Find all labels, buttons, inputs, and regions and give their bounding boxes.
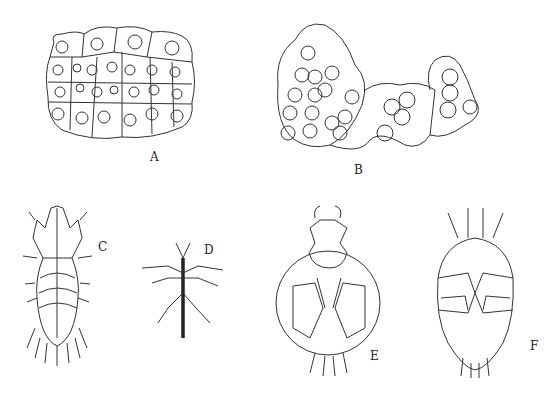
panel-label-b: B	[354, 164, 363, 176]
panel-label-a: A	[150, 151, 159, 163]
panel-label-f: F	[530, 340, 538, 352]
panel-label-e: E	[370, 350, 379, 362]
panel-label-c: C	[98, 241, 107, 253]
panel-label-d: D	[204, 244, 214, 256]
panel-e-drawing	[275, 198, 385, 378]
panel-b-drawing	[270, 15, 485, 160]
panel-c-drawing	[15, 198, 100, 368]
panel-f-drawing	[423, 198, 528, 378]
panel-a-drawing	[42, 22, 207, 142]
